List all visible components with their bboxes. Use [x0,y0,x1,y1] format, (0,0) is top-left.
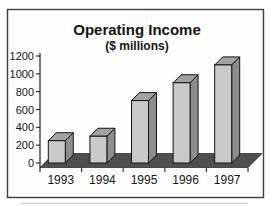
chart-title: Operating Income [73,21,201,38]
bar-1996 [173,75,198,163]
x-category-label: 1997 [214,173,241,187]
chart-subtitle: ($ millions) [105,39,168,53]
y-tick-label: 600 [16,104,34,116]
y-tick-label: 800 [16,86,34,98]
bar-front-face [215,65,232,163]
y-tick-label: 0 [28,157,34,169]
y-tick-label: 400 [16,121,34,133]
y-tick-label: 1200 [10,50,34,62]
bar-1997 [215,57,240,163]
bar-side-face [232,57,240,163]
bar-1994 [90,128,115,163]
bar-front-face [132,101,149,163]
scan-artifact-line [20,203,248,205]
operating-income-bar-chart: 020040060080010001200 199319941995199619… [0,0,272,206]
x-category-label: 1993 [47,173,74,187]
bar-front-face [48,141,65,163]
x-category-label: 1996 [172,173,199,187]
bar-side-face [149,93,157,163]
scanned-chart-page: 020040060080010001200 199319941995199619… [0,0,272,206]
bar-1993 [48,133,73,163]
bar-front-face [90,136,107,163]
x-category-label: 1994 [89,173,116,187]
y-tick-label: 1000 [10,68,34,80]
x-category-label: 1995 [131,173,158,187]
bar-1995 [132,93,157,163]
y-tick-label: 200 [16,139,34,151]
bar-front-face [173,83,190,163]
bar-side-face [190,75,198,163]
